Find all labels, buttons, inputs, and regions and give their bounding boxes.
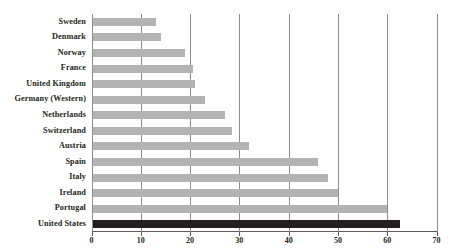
bar (93, 127, 232, 135)
bar (93, 65, 193, 73)
bar (93, 49, 186, 57)
category-label: United States (0, 220, 86, 228)
category-label: Spain (0, 158, 86, 166)
gridline (239, 14, 240, 232)
gridline (190, 14, 191, 232)
bar (93, 158, 319, 166)
y-axis-line (92, 14, 93, 232)
category-axis-labels: SwedenDenmarkNorwayFranceUnited KingdomG… (0, 14, 89, 232)
gridline (289, 14, 290, 232)
bar (93, 96, 205, 104)
bar (93, 220, 400, 228)
gridline (437, 14, 438, 232)
x-axis-ticks: 010203040506070 (92, 232, 437, 252)
category-label: Norway (0, 49, 86, 57)
bar (93, 18, 156, 26)
x-tick-label: 60 (375, 237, 399, 245)
bar (93, 174, 329, 182)
bar (93, 33, 161, 41)
x-tick-label: 0 (80, 237, 104, 245)
category-label: Italy (0, 173, 86, 181)
bar (93, 111, 225, 119)
x-tick-label: 50 (326, 237, 350, 245)
chart-title (0, 0, 456, 8)
x-tick-label: 70 (425, 237, 449, 245)
x-tick-label: 30 (227, 237, 251, 245)
category-label: Denmark (0, 33, 86, 41)
category-label: Portugal (0, 204, 86, 212)
plot-area (92, 14, 437, 232)
bar (93, 189, 338, 197)
category-label: France (0, 64, 86, 72)
bar (93, 80, 196, 88)
category-label: Sweden (0, 18, 86, 26)
category-label: Ireland (0, 189, 86, 197)
category-label: Germany (Western) (0, 95, 86, 103)
bar-chart: SwedenDenmarkNorwayFranceUnited KingdomG… (0, 0, 456, 252)
x-tick-label: 20 (178, 237, 202, 245)
gridline (141, 14, 142, 232)
x-tick-label: 40 (277, 237, 301, 245)
bar (93, 205, 388, 213)
bar (93, 142, 250, 150)
x-tick-label: 10 (129, 237, 153, 245)
category-label: Switzerland (0, 127, 86, 135)
category-label: Austria (0, 142, 86, 150)
gridline (387, 14, 388, 232)
category-label: United Kingdom (0, 80, 86, 88)
gridline (338, 14, 339, 232)
category-label: Netherlands (0, 111, 86, 119)
